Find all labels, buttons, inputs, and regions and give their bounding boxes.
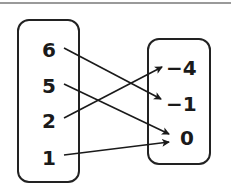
mapping-arrows [0, 0, 231, 192]
arrow-1-to-0 [64, 142, 169, 155]
